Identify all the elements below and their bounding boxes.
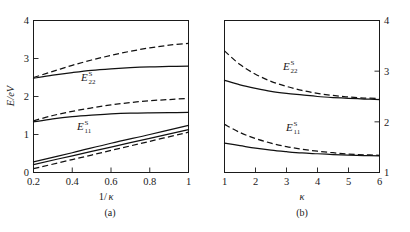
- panel-b-xtick-1: 2: [253, 176, 258, 187]
- panel-b-xtick-0: 1: [222, 176, 227, 187]
- panel-a-caption: (a): [104, 207, 115, 219]
- panel-b-ytick-2: 2: [384, 117, 389, 128]
- panel-a-x-axis-title-slash: /: [104, 191, 107, 202]
- panel-a-xtick-0: 0.2: [27, 176, 40, 187]
- panel-a-ytick-3: 3: [24, 53, 29, 64]
- panel-b-caption: (b): [296, 207, 308, 219]
- panel-b-ytick-3: 3: [384, 66, 389, 77]
- panel-a-ytick-4: 4: [24, 15, 30, 26]
- panel-b-xtick-5: 6: [377, 176, 382, 187]
- panel-a-label-e11-base: E: [76, 120, 84, 132]
- panel-b-label-e22-sup: S: [291, 59, 295, 67]
- panel-b-label-e11-sub: 11: [294, 128, 301, 136]
- panel-a-xtick-1: 0.4: [66, 176, 80, 187]
- panel-b-xtick-4: 5: [346, 176, 351, 187]
- panel-b-ytick-4: 4: [384, 15, 390, 26]
- panel-a-ytick-1: 1: [24, 129, 29, 140]
- background: [0, 0, 410, 232]
- figure-container: 0 1 2 3 4 0.2 0.4 0.6 0.8 1 E/eV 1 / κ (…: [0, 0, 410, 232]
- chart-svg: 0 1 2 3 4 0.2 0.4 0.6 0.8 1 E/eV 1 / κ (…: [0, 0, 410, 232]
- panel-a-label-e22-base: E: [80, 71, 88, 83]
- panel-a-xtick-4: 1: [186, 176, 191, 187]
- panel-b-label-e11-sup: S: [294, 120, 298, 128]
- panel-b-label-e11-base: E: [285, 121, 293, 133]
- panel-b-label-e22-sub: 22: [291, 67, 299, 75]
- panel-a-label-e11-sup: S: [85, 119, 89, 127]
- panel-a-xtick-3: 0.8: [143, 176, 156, 187]
- panel-b-xtick-2: 3: [284, 176, 289, 187]
- panel-a-y-axis-title: E/eV: [5, 84, 16, 107]
- panel-b-xtick-3: 4: [315, 176, 321, 187]
- panel-a-label-e11-sub: 11: [85, 127, 92, 135]
- panel-b-label-e22-base: E: [282, 60, 290, 72]
- panel-a-xtick-2: 0.6: [104, 176, 117, 187]
- panel-a-x-axis-title: 1 / κ: [99, 191, 115, 202]
- panel-a-label-e22-sub: 22: [89, 78, 97, 86]
- panel-b-ytick-1: 1: [384, 167, 389, 178]
- panel-a-ytick-2: 2: [24, 91, 29, 102]
